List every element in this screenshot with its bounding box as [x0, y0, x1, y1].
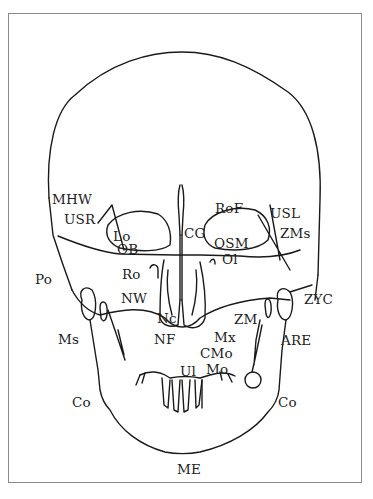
label-mo: Mo — [206, 363, 228, 377]
label-nw: NW — [121, 292, 147, 306]
label-nc: Nc — [157, 312, 177, 326]
label-nf: NF — [154, 333, 176, 347]
label-usl: USL — [270, 207, 300, 221]
skull-drawing — [0, 0, 373, 499]
label-rof: RoF — [215, 202, 243, 216]
label-ol: Ol — [222, 253, 238, 267]
crista-galli — [178, 185, 183, 235]
label-co-right: Co — [278, 396, 297, 410]
label-osm: OSM — [214, 237, 249, 251]
label-cmo: CMo — [200, 347, 233, 361]
label-ro: Ro — [122, 268, 141, 282]
label-zyc: ZYC — [304, 293, 333, 307]
label-po: Po — [35, 273, 52, 287]
label-mx: Mx — [214, 331, 236, 345]
label-zm: ZM — [234, 313, 258, 327]
label-mhw: MHW — [52, 193, 92, 207]
label-ob: OB — [117, 243, 138, 257]
label-me: ME — [177, 463, 201, 477]
label-zms: ZMs — [280, 227, 311, 241]
right-zygoma — [277, 289, 292, 320]
label-ms: Ms — [58, 333, 79, 347]
left-zygoma — [81, 288, 96, 320]
cranium-outline — [48, 52, 320, 275]
label-cg: CG — [184, 227, 206, 241]
label-are: ARE — [281, 334, 311, 348]
label-co-left: Co — [72, 396, 91, 410]
label-ul: Ul — [180, 365, 196, 379]
label-usr: USR — [64, 213, 95, 227]
